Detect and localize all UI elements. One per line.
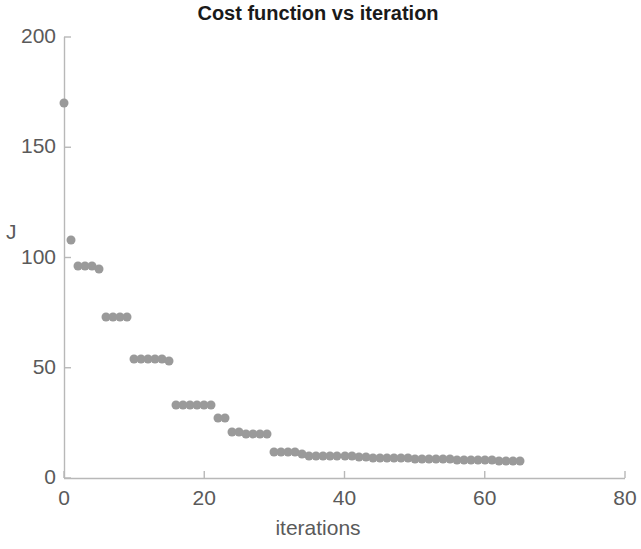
x-tick-text: 20 bbox=[169, 486, 239, 510]
y-axis-label: J bbox=[6, 220, 17, 244]
y-tick-text: 200 bbox=[4, 24, 56, 48]
x-tick-text: 80 bbox=[590, 486, 641, 510]
x-tick-text: 60 bbox=[450, 486, 520, 510]
x-tick-text: 0 bbox=[29, 486, 99, 510]
data-point bbox=[263, 429, 272, 438]
y-tick-text: 50 bbox=[4, 355, 56, 379]
data-point bbox=[67, 235, 76, 244]
data-point bbox=[165, 357, 174, 366]
x-tick-text: 40 bbox=[310, 486, 380, 510]
data-point bbox=[221, 414, 230, 423]
x-axis-label: iterations bbox=[0, 516, 636, 540]
data-point bbox=[123, 313, 132, 322]
data-point bbox=[515, 457, 524, 466]
data-point bbox=[207, 401, 216, 410]
data-point bbox=[95, 264, 104, 273]
data-point bbox=[60, 99, 69, 108]
y-tick-text: 100 bbox=[4, 245, 56, 269]
plot-area bbox=[64, 37, 625, 478]
y-tick-text: 150 bbox=[4, 134, 56, 158]
